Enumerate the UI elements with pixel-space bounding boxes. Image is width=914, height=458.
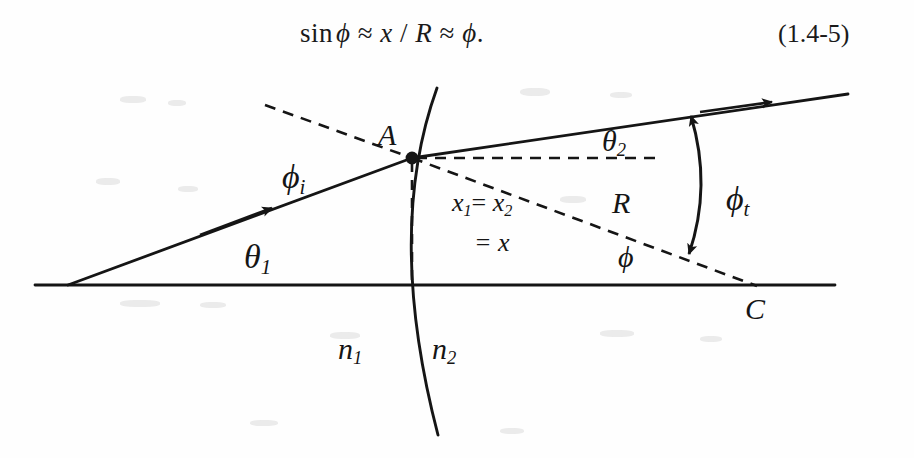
equation-approx-2: ≈ [440,18,455,48]
label-ray-height-line-2: = x [474,230,510,256]
label-phi-i: ϕi [282,160,305,198]
diagram-canvas [0,62,914,458]
radius-dashed-line [412,158,757,286]
equation-approx-1: ≈ [358,18,373,48]
equation-R: R [415,18,432,48]
refracted-ray-line [412,94,848,158]
spherical-surface-arc [411,88,438,435]
label-index-n1: n1 [338,334,362,368]
equation-expression: sinϕ ≈ x / R ≈ ϕ. [300,18,484,49]
incident-ray-line [68,158,412,285]
label-ray-height-line-1: x1= x2 [452,190,512,219]
label-phi-t: ϕt [726,182,749,220]
phi-t-angle-arc [689,116,701,254]
equation-number: (1.4-5) [778,19,849,49]
figure-page: sinϕ ≈ x / R ≈ ϕ. (1.4-5) [0,0,914,458]
equation-phi-1: ϕ [336,18,350,48]
equation-row: sinϕ ≈ x / R ≈ ϕ. (1.4-5) [0,18,914,64]
label-angle-phi: ϕ [618,242,634,272]
label-index-n2: n2 [432,334,456,368]
label-vertex-A: A [378,120,396,150]
equation-period: . [477,18,484,48]
equation-x: x [380,18,392,48]
incident-ray-arrow [200,208,272,235]
label-theta-2: θ2 [602,126,626,160]
equation-sin: sin [300,18,333,48]
equation-phi-2: ϕ [462,18,476,48]
label-radius-R: R [612,188,630,218]
optics-diagram: A C ϕi ϕt θ1 θ2 R ϕ n1 n2 x1= [0,62,914,458]
equation-slash: / [400,18,408,48]
vertex-point-A [406,152,419,165]
label-center-C: C [745,294,765,324]
label-theta-1: θ1 [244,240,271,278]
